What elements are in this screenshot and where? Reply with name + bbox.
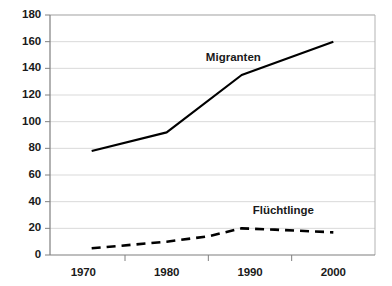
y-axis-ticks	[45, 15, 50, 255]
x-axis-ticks	[125, 255, 292, 261]
plot-area-background	[50, 15, 375, 255]
line-chart: 020406080100120140160180 197019801990200…	[0, 0, 392, 286]
chart-canvas	[0, 0, 392, 286]
